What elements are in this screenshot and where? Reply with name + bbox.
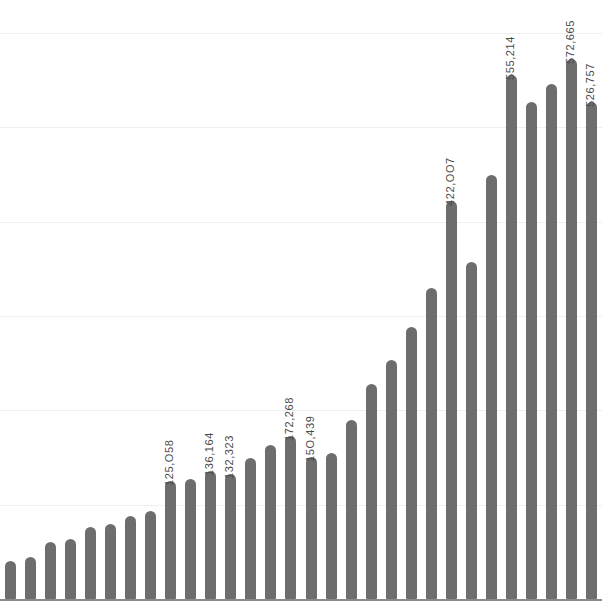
data-labels-group: 125,O58136,164132,323172,26815O,439422,O… xyxy=(0,0,602,616)
bar-value-label: 572,665 xyxy=(565,20,576,64)
bar-value-label: 125,O58 xyxy=(164,440,175,486)
bar-value-label: 555,214 xyxy=(505,36,516,80)
bar-value-label: 132,323 xyxy=(224,435,235,479)
x-axis-line xyxy=(0,599,602,601)
bar-value-label: 526,757 xyxy=(585,63,596,107)
bar-value-label: 136,164 xyxy=(204,432,215,476)
bar-value-label: 15O,439 xyxy=(305,416,316,462)
bar-chart: 125,O58136,164132,323172,26815O,439422,O… xyxy=(0,0,602,616)
bar-value-label: 172,268 xyxy=(284,397,295,441)
bar-value-label: 422,OO7 xyxy=(445,157,456,206)
